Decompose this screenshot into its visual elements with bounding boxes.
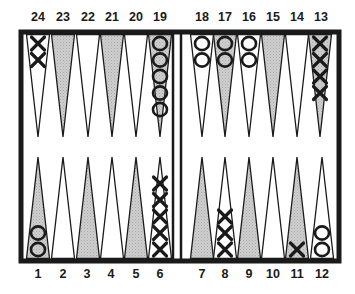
backgammon-board (0, 0, 355, 294)
